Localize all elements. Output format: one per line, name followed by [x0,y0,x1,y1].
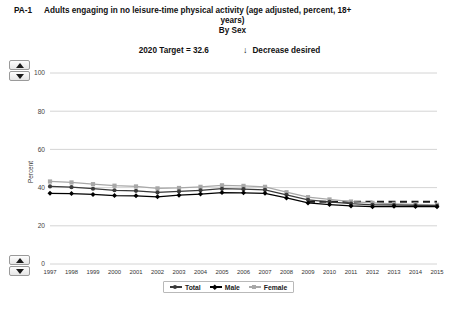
legend-swatch-male [210,286,222,287]
svg-text:20: 20 [38,222,46,229]
svg-text:100: 100 [34,69,45,76]
line-chart-svg: 020406080100 Percent 1997199819992000200… [0,0,449,310]
diamond-marker-icon [212,284,217,289]
svg-text:2012: 2012 [366,269,379,275]
legend-item-total[interactable]: Total [170,284,201,291]
svg-text:2011: 2011 [345,269,358,275]
legend-item-male[interactable]: Male [210,284,240,291]
y-tick-labels: 020406080100 [34,69,45,267]
legend-swatch-female [249,286,261,287]
svg-text:2010: 2010 [323,269,337,275]
svg-text:0: 0 [41,260,45,267]
svg-text:1999: 1999 [86,269,99,275]
gridlines [50,73,437,264]
svg-text:2005: 2005 [215,269,229,275]
chart-legend: Total Male Female [163,281,294,293]
svg-text:2000: 2000 [108,269,122,275]
x-tick-labels: 1997199819992000200120022003200420052006… [43,269,444,275]
legend-swatch-total [170,286,182,287]
legend-item-female[interactable]: Female [249,284,287,291]
square-marker-icon [252,285,256,289]
svg-text:2004: 2004 [194,269,208,275]
svg-text:2013: 2013 [387,269,401,275]
chart-plot-area: 020406080100 Percent 1997199819992000200… [0,0,449,310]
data-series-layer [48,179,440,209]
svg-text:60: 60 [38,146,46,153]
circle-marker-icon [173,285,177,289]
svg-text:2003: 2003 [172,269,186,275]
svg-text:2014: 2014 [409,269,423,275]
y-axis-label: Percent [27,161,34,183]
svg-text:2007: 2007 [258,269,271,275]
svg-text:2009: 2009 [301,269,314,275]
svg-text:80: 80 [38,108,46,115]
svg-text:40: 40 [38,184,46,191]
svg-text:1998: 1998 [65,269,79,275]
legend-label-total: Total [185,284,201,291]
legend-label-male: Male [225,284,240,291]
svg-text:2001: 2001 [129,269,142,275]
svg-text:2006: 2006 [237,269,251,275]
svg-text:2015: 2015 [430,269,444,275]
svg-text:2002: 2002 [151,269,164,275]
legend-label-female: Female [264,284,287,291]
chart-page: PA-1 Adults engaging in no leisure-time … [0,0,449,310]
svg-text:2008: 2008 [280,269,294,275]
svg-text:1997: 1997 [43,269,56,275]
